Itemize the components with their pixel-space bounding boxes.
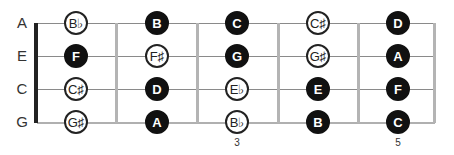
note-g-fret2: A bbox=[145, 110, 169, 134]
fret-number-5: 5 bbox=[390, 137, 406, 148]
note-a-fret4: C♯ bbox=[306, 11, 330, 35]
fret-5 bbox=[433, 23, 436, 123]
note-g-fret4: B bbox=[306, 110, 330, 134]
note-c-fret5: F bbox=[386, 77, 410, 101]
note-a-fret3: C bbox=[225, 11, 249, 35]
note-e-fret4: G♯ bbox=[306, 44, 330, 68]
note-a-fret5: D bbox=[386, 11, 410, 35]
note-e-fret2: F♯ bbox=[145, 44, 169, 68]
fret-4 bbox=[357, 23, 360, 123]
note-c-fret1: C♯ bbox=[64, 77, 88, 101]
note-c-fret4: E bbox=[306, 77, 330, 101]
note-e-fret1: F bbox=[64, 44, 88, 68]
note-c-fret3: E♭ bbox=[225, 77, 249, 101]
fret-number-3: 3 bbox=[229, 137, 245, 148]
fretboard-diagram: A E C G B♭ B C C♯ D F F♯ G G♯ A C♯ D E♭ … bbox=[0, 0, 454, 155]
string-label-c: C bbox=[12, 81, 32, 97]
note-c-fret2: D bbox=[145, 77, 169, 101]
note-g-fret5: C bbox=[386, 110, 410, 134]
fret-2 bbox=[196, 23, 199, 123]
fret-1 bbox=[115, 23, 118, 123]
nut bbox=[34, 23, 38, 123]
fret-3 bbox=[277, 23, 280, 123]
note-e-fret5: A bbox=[386, 44, 410, 68]
note-g-fret1: G♯ bbox=[64, 110, 88, 134]
note-g-fret3: B♭ bbox=[225, 110, 249, 134]
note-a-fret2: B bbox=[145, 11, 169, 35]
string-label-e: E bbox=[12, 48, 32, 64]
string-label-a: A bbox=[12, 15, 32, 31]
note-e-fret3: G bbox=[225, 44, 249, 68]
string-label-g: G bbox=[12, 114, 32, 130]
note-a-fret1: B♭ bbox=[64, 11, 88, 35]
